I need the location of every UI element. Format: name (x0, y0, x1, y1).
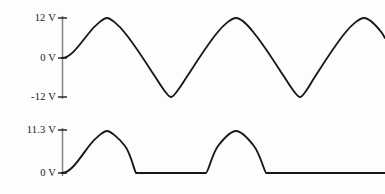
waveform-figure: 12 V 0 V -12 V 11.3 V 0 V (0, 0, 385, 194)
bottom-chart-plot (0, 0, 385, 194)
bottom-chart-rectified-trace (62, 131, 385, 173)
